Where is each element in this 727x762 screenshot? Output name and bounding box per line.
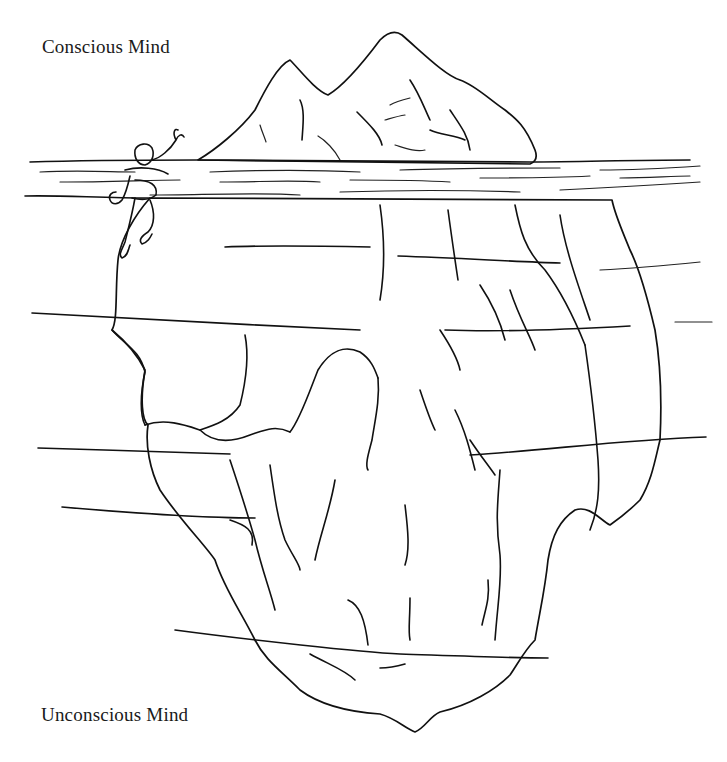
submerged-iceberg	[112, 198, 661, 732]
iceberg-illustration	[0, 0, 727, 762]
water-surface	[30, 160, 700, 195]
iceberg-tip	[198, 32, 536, 164]
